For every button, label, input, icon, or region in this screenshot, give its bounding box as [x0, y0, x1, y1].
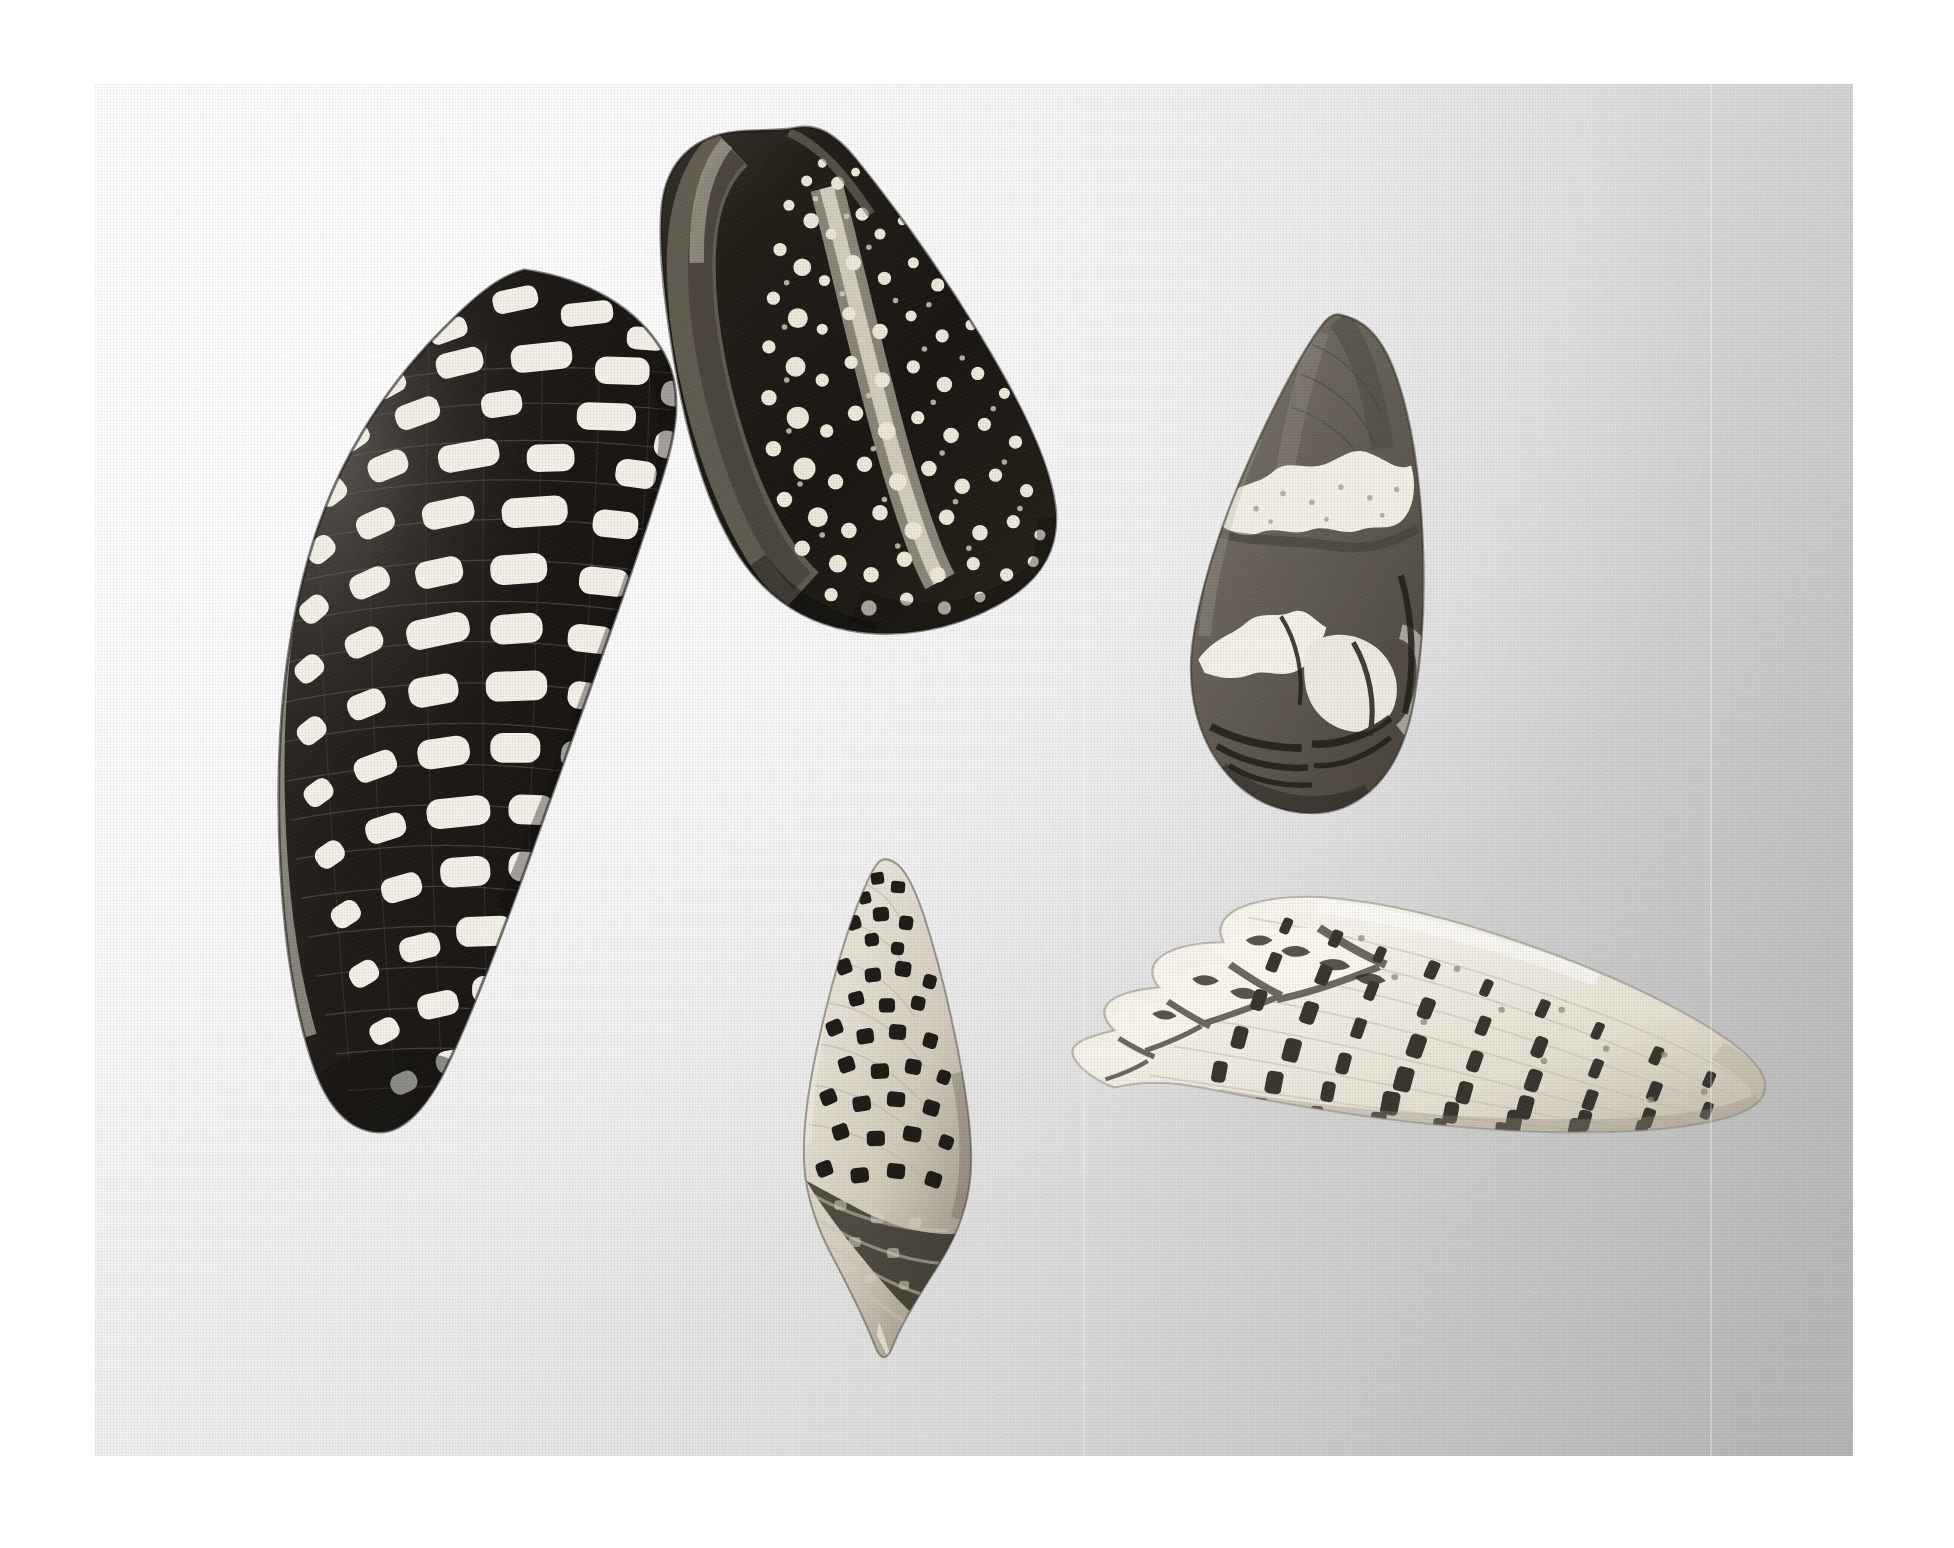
page-root [0, 0, 1954, 1548]
shell-top-center [589, 119, 1111, 716]
shell-bottom-center [774, 855, 1006, 1365]
photographic-plate [95, 84, 1853, 1456]
shell-right [1157, 308, 1488, 847]
shell-bottom-right [983, 846, 1807, 1194]
vertical-crease-right [1710, 84, 1712, 1456]
